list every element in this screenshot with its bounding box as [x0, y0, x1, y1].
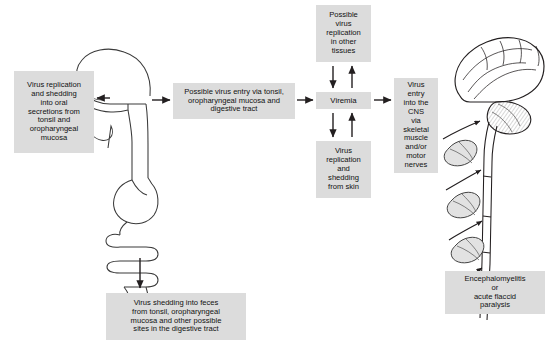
nerve-arrow-middle: [449, 221, 482, 240]
muscle-middle: [447, 192, 480, 218]
muscle-upper: [444, 140, 477, 166]
box-virus-shedding-feces: Virus shedding into feces from tonsil, o…: [106, 293, 246, 340]
nerve-arrow-upper: [446, 170, 481, 190]
box-possible-replication-other-tissues: Possible virus replication in other tiss…: [316, 5, 371, 62]
nerve-arrow-top: [443, 121, 480, 139]
box-possible-virus-entry: Possible virus entry via tonsil, orophar…: [173, 83, 295, 119]
box-virus-entry-cns: Virus entry into the CNS via skeletal mu…: [394, 78, 438, 173]
box-virus-replication-skin: Virus replication and shedding from skin: [316, 141, 371, 198]
box-encephalomyelitis: Encephalomyelitis or acute flaccid paral…: [445, 271, 545, 314]
diagram-canvas: Virus replication and shedding into oral…: [0, 0, 551, 350]
box-virus-replication-oral: Virus replication and shedding into oral…: [14, 71, 94, 153]
muscle-lower: [451, 237, 484, 263]
box-viremia: Viremia: [316, 92, 371, 109]
